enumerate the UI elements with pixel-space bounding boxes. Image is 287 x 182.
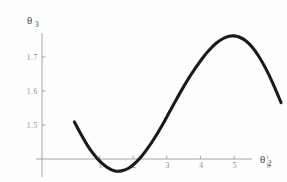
y-tick-label: 1.5	[27, 121, 38, 130]
chart-figure: 123456 1.51.61.7 θ 3 θ 2	[0, 0, 287, 182]
x-tick-label: 4	[199, 161, 203, 170]
y-ticks-group: 1.51.61.7	[27, 53, 46, 130]
y-axis-title-subscript: 3	[35, 20, 39, 29]
data-series-group	[74, 36, 281, 171]
y-axis-title-symbol: θ	[27, 14, 32, 26]
y-axis-title: θ 3	[27, 14, 39, 29]
y-tick-label: 1.6	[27, 87, 38, 96]
data-curve	[74, 36, 281, 171]
x-ticks-group: 123456	[98, 156, 270, 170]
x-tick-label: 5	[233, 161, 237, 170]
plot-canvas: 123456 1.51.61.7 θ 3 θ 2	[0, 0, 287, 182]
x-tick-label: 3	[166, 161, 170, 170]
y-tick-label: 1.7	[27, 53, 38, 62]
x-axis-title-subscript: 2	[268, 159, 272, 168]
x-axis-title-symbol: θ	[260, 153, 265, 165]
